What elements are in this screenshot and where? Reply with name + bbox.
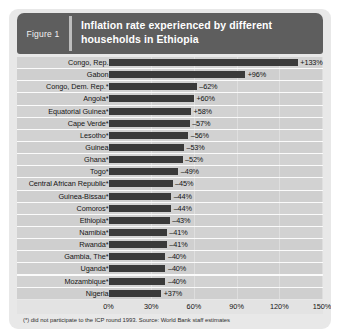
chart-bar-row: Central African Republic*–45% [17, 178, 323, 189]
bar [109, 205, 172, 212]
category-label: Cape Verde* [9, 119, 109, 128]
category-label: Mozambique* [9, 277, 109, 286]
bar-track: –53% [109, 142, 324, 153]
bar [109, 193, 172, 200]
bar [109, 241, 167, 248]
bar-track: +60% [109, 93, 324, 104]
bar-value-label: –57% [192, 119, 210, 128]
bar-track: –45% [109, 178, 324, 189]
bar-value-label: –53% [186, 143, 204, 152]
bar-track: –44% [109, 203, 324, 214]
chart-bar-row: Togo*–49% [17, 166, 323, 177]
x-axis-tick-label: 90% [229, 302, 244, 311]
category-label: Gambia, The* [9, 252, 109, 261]
bar-track: –56% [109, 130, 324, 141]
bar-track: +96% [109, 69, 324, 80]
bar-value-label: +96% [248, 70, 266, 79]
figure-footnote: (*) did not participate to the ICP round… [23, 317, 230, 323]
bar-track: –49% [109, 166, 324, 177]
bar-value-label: +37% [164, 289, 182, 298]
category-label: Equatorial Guinea* [9, 107, 109, 116]
bar [109, 278, 166, 285]
bar-track: –40% [109, 263, 324, 274]
x-axis-tick-label: 120% [270, 302, 289, 311]
bar-track: +58% [109, 106, 324, 117]
bar-value-label: –44% [174, 192, 192, 201]
bar-value-label: –62% [199, 82, 217, 91]
category-label: Gabon [9, 70, 109, 79]
x-axis-tick-label: 150% [313, 302, 331, 311]
bar-track: –44% [109, 191, 324, 202]
bar-value-label: –41% [169, 228, 187, 237]
chart-bar-row: Angola*+60% [17, 93, 323, 104]
chart-bar-row: Equatorial Guinea*+58% [17, 106, 323, 117]
bar [109, 59, 298, 66]
bar-value-label: –43% [172, 216, 190, 225]
bar [109, 180, 173, 187]
category-label: Guinea-Bissau* [9, 192, 109, 201]
bar-track: –41% [109, 239, 324, 250]
bar [109, 132, 189, 139]
bar-track: –52% [109, 154, 324, 165]
bar-value-label: –52% [185, 155, 203, 164]
bar [109, 108, 192, 115]
x-axis: 0%30%60%90%120%150% [17, 300, 323, 314]
chart-bar-row: Guinea-Bissau*–44% [17, 191, 323, 202]
category-label: Congo, Rep. [9, 58, 109, 67]
bar-track: –40% [109, 276, 324, 287]
category-label: Namibia* [9, 228, 109, 237]
bar-value-label: –40% [168, 252, 186, 261]
bar-track: +37% [109, 288, 324, 299]
chart-plot-area: Congo, Rep.+133%Gabon+96%Congo, Dem. Rep… [17, 57, 323, 300]
bar-value-label: –41% [169, 240, 187, 249]
chart-bar-row: Gambia, The*–40% [17, 251, 323, 262]
chart-bar-row: Congo, Rep.+133% [17, 57, 323, 68]
chart-bar-row: Comoros*–44% [17, 203, 323, 214]
bar [109, 229, 167, 236]
bar-value-label: –44% [174, 204, 192, 213]
figure-number-badge: Figure 1 [17, 13, 69, 54]
chart-bar-row: Lesotho*–56% [17, 130, 323, 141]
bar-track: –57% [109, 118, 324, 129]
bar-value-label: –49% [181, 167, 199, 176]
bar [109, 144, 184, 151]
bar-value-label: –40% [168, 264, 186, 273]
bar-track: –43% [109, 215, 324, 226]
bar [109, 217, 170, 224]
category-label: Angola* [9, 94, 109, 103]
category-label: Uganda* [9, 264, 109, 273]
category-label: Rwanda* [9, 240, 109, 249]
chart-bar-row: Ethiopia*–43% [17, 215, 323, 226]
chart-bar-row: Rwanda*–41% [17, 239, 323, 250]
bar [109, 156, 183, 163]
category-label: Guinea [9, 143, 109, 152]
chart-bar-row: Namibia*–41% [17, 227, 323, 238]
bar [109, 83, 197, 90]
bar-track: –40% [109, 251, 324, 262]
chart-bar-row: Gabon+96% [17, 69, 323, 80]
bar-value-label: +133% [300, 58, 322, 67]
bar-value-label: –45% [175, 179, 193, 188]
bar-track: +133% [109, 57, 324, 68]
bar-track: –62% [109, 81, 324, 92]
bar-value-label: –40% [168, 277, 186, 286]
category-label: Togo* [9, 167, 109, 176]
chart-bar-row: Ghana*–52% [17, 154, 323, 165]
figure-number-label: Figure 1 [27, 29, 60, 39]
category-label: Congo, Dem. Rep.* [9, 82, 109, 91]
bar-value-label: +58% [194, 107, 212, 116]
bar [109, 71, 246, 78]
bar [109, 95, 194, 102]
category-label: Ethiopia* [9, 216, 109, 225]
x-axis-tick-label: 0% [103, 302, 114, 311]
bar-track: –41% [109, 227, 324, 238]
chart-bar-row: Cape Verde*–57% [17, 118, 323, 129]
chart-bar-row: Nigeria+37% [17, 288, 323, 299]
x-axis-tick-label: 60% [187, 302, 202, 311]
x-axis-tick-label: 30% [144, 302, 159, 311]
figure-title: Inflation rate experienced by different … [72, 13, 323, 54]
category-label: Ghana* [9, 155, 109, 164]
bar [109, 120, 190, 127]
category-label: Lesotho* [9, 131, 109, 140]
chart-bar-row: Uganda*–40% [17, 263, 323, 274]
